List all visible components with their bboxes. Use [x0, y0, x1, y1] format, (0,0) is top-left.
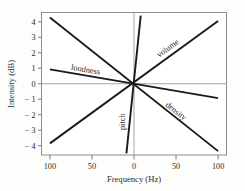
y-tick-label: 1 [31, 64, 35, 73]
y-tick-label: 0 [31, 80, 35, 89]
y-tick-label: − 3 [25, 126, 36, 135]
y-tick-label: 3 [31, 33, 35, 42]
y-tick-label: − 4 [25, 142, 36, 151]
y-tick-label: − 1 [25, 95, 36, 104]
x-tick-label: 0 [132, 162, 136, 171]
chart-screenshot: 43210− 1− 2− 3− 4 10050050100 loudnessvo… [0, 0, 245, 191]
y-tick-label: 4 [31, 18, 35, 27]
y-tick-label: 2 [31, 49, 35, 58]
x-tick-label: 50 [88, 162, 96, 171]
series-label-pitch: pitch [118, 113, 127, 131]
x-axis-title: Frequency (Hz) [107, 174, 161, 184]
x-tick-label: 100 [44, 162, 56, 171]
x-tick-label: 50 [172, 162, 180, 171]
y-tick-label: − 2 [25, 111, 36, 120]
x-tick-label: 100 [212, 162, 224, 171]
intensity-frequency-chart: 43210− 1− 2− 3− 4 10050050100 loudnessvo… [0, 0, 245, 191]
y-axis-title: Intensity (dB) [6, 60, 16, 108]
